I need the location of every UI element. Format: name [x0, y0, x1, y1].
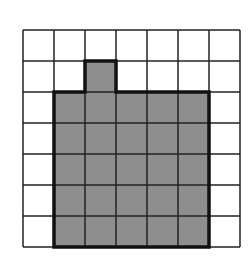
shaded-cell [116, 216, 147, 247]
shaded-cell [54, 216, 85, 247]
shaded-cell [178, 92, 209, 123]
shaded-cell [85, 92, 116, 123]
shaded-cell [85, 216, 116, 247]
shaded-cell [147, 123, 178, 154]
shaded-cell [116, 185, 147, 216]
shaded-cell [85, 61, 116, 92]
shaded-cell [54, 123, 85, 154]
shaded-cell [54, 185, 85, 216]
shaded-cell [178, 216, 209, 247]
shaded-cell [85, 123, 116, 154]
shaded-cell [116, 154, 147, 185]
shaded-cell [147, 216, 178, 247]
shaded-cell [116, 92, 147, 123]
shaded-cell [147, 92, 178, 123]
shaded-cell [54, 154, 85, 185]
shaded-cell [178, 185, 209, 216]
grid-diagram [0, 0, 252, 277]
shaded-cell [147, 154, 178, 185]
shaded-cell [147, 185, 178, 216]
shaded-cell [178, 154, 209, 185]
shaded-cell [116, 123, 147, 154]
shaded-cell [85, 185, 116, 216]
shaded-cell [178, 123, 209, 154]
shaded-cell [85, 154, 116, 185]
shaded-cell [54, 92, 85, 123]
